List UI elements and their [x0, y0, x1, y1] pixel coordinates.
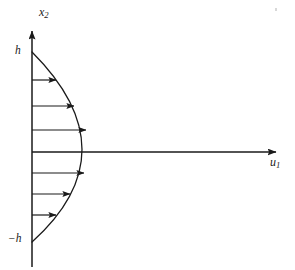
vertical-axis-label-subscript: 2 [44, 10, 48, 20]
scan-artifact-speck [275, 8, 277, 11]
tick-label-lower-wall: −h [8, 233, 22, 245]
horizontal-axis-label-subscript: 1 [276, 160, 280, 170]
plot-canvas [0, 0, 295, 270]
vertical-axis-label: x2 [39, 6, 49, 20]
tick-label-upper-wall: h [15, 45, 21, 57]
horizontal-axis-label: u1 [270, 156, 280, 170]
velocity-profile-figure: x2 u1 h −h [0, 0, 295, 270]
